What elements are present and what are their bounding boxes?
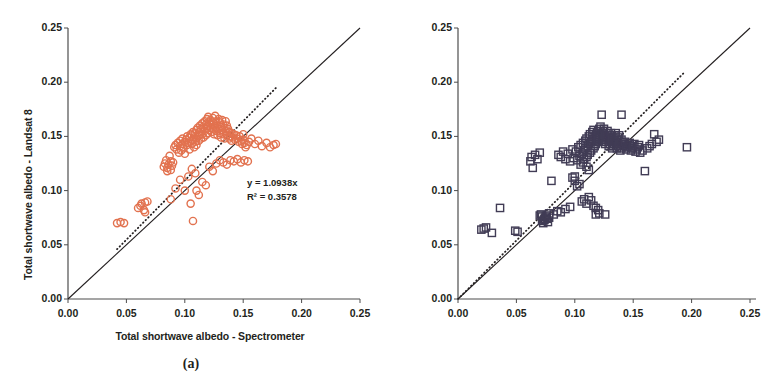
y-tick-label: 0.25 <box>410 21 452 33</box>
data-point <box>655 136 662 143</box>
data-point <box>683 144 690 151</box>
data-point <box>598 111 605 118</box>
x-tick-label: 0.25 <box>730 307 766 319</box>
data-point <box>646 143 653 150</box>
x-tick-label: 0.20 <box>672 307 712 319</box>
x-tick-label: 0.00 <box>48 307 88 319</box>
y-tick-label: 0.00 <box>20 292 62 304</box>
x-tick-label: 0.15 <box>613 307 653 319</box>
x-tick-label: 0.25 <box>340 307 380 319</box>
data-point <box>644 145 651 152</box>
identity-line <box>458 28 750 299</box>
y-tick-label: 0.25 <box>20 21 62 33</box>
panel-a-x-axis-label: Total shortwave albedo - Spectrometer <box>60 330 360 342</box>
panel-a-r-squared: R² = 0.3578 <box>247 190 297 204</box>
y-tick-label: 0.20 <box>410 75 452 87</box>
data-point <box>653 138 660 145</box>
regression-line <box>117 88 276 249</box>
x-tick-label: 0.10 <box>555 307 595 319</box>
panel-a-annotation: y = 1.0938x R² = 0.3578 <box>247 176 297 204</box>
data-point <box>578 198 585 205</box>
data-point <box>641 167 648 174</box>
data-point <box>581 196 588 203</box>
data-point <box>590 202 597 209</box>
y-tick-label: 0.10 <box>20 184 62 196</box>
panel-a-caption: (a) <box>141 356 241 372</box>
y-tick-label: 0.15 <box>410 129 452 141</box>
x-tick-label: 0.20 <box>282 307 322 319</box>
x-tick-label: 0.05 <box>496 307 536 319</box>
data-points <box>113 112 279 227</box>
data-point <box>187 200 194 207</box>
data-point <box>567 203 574 210</box>
x-tick-label: 0.05 <box>106 307 146 319</box>
data-point <box>185 173 192 180</box>
y-tick-label: 0.05 <box>20 238 62 250</box>
panel-a-equation: y = 1.0938x <box>247 176 297 190</box>
y-tick-label: 0.20 <box>20 75 62 87</box>
x-tick-label: 0.00 <box>438 307 478 319</box>
data-point <box>548 177 555 184</box>
y-tick-label: 0.00 <box>410 292 452 304</box>
data-point <box>557 153 564 160</box>
panel-b: Total shortwave albedo - Sentinel-2 Tota… <box>383 0 766 385</box>
y-tick-label: 0.05 <box>410 238 452 250</box>
x-tick-label: 0.15 <box>223 307 263 319</box>
x-tick-label: 0.10 <box>165 307 205 319</box>
data-point <box>177 176 184 183</box>
y-tick-label: 0.15 <box>20 129 62 141</box>
panel-a: Total shortwave albedo - Landsat 8 Total… <box>0 0 383 385</box>
data-point <box>648 140 655 147</box>
regression-line <box>458 73 683 299</box>
data-point <box>167 196 174 203</box>
scatter-figure: Total shortwave albedo - Landsat 8 Total… <box>0 0 766 385</box>
y-tick-label: 0.10 <box>410 184 452 196</box>
identity-line <box>68 28 360 299</box>
data-point <box>496 204 503 211</box>
data-point <box>562 156 569 163</box>
data-point <box>618 111 625 118</box>
data-point <box>189 217 196 224</box>
